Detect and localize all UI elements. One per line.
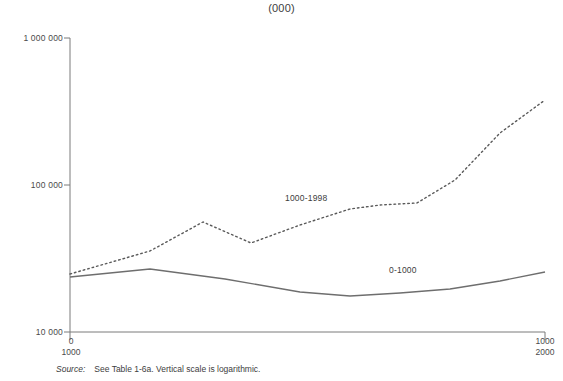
series-line-0-1000 — [70, 269, 545, 296]
source-note: Source:See Table 1-6a. Vertical scale is… — [56, 364, 260, 374]
chart-plot-area — [0, 0, 563, 381]
source-note-label: Source: — [56, 364, 85, 374]
series-label-0-1000: 0-1000 — [389, 265, 417, 275]
series-line-1000-1998 — [70, 100, 545, 274]
x-axis-tick-label-left: 0 1000 — [56, 336, 86, 358]
y-axis-tick-label-middle: 100 000 — [3, 180, 63, 190]
y-axis-tick-label-bottom: 10 000 — [3, 327, 63, 337]
x-axis-tick-label-right-line2: 2000 — [528, 347, 562, 358]
source-note-text: See Table 1-6a. Vertical scale is logari… — [94, 364, 260, 374]
series-label-1000-1998: 1000-1998 — [285, 193, 327, 203]
x-axis-tick-label-left-line2: 1000 — [56, 347, 86, 358]
chart-figure: (000) 1 000 000 100 000 10 000 0 1000 10… — [0, 0, 563, 381]
x-axis-tick-label-right-line1: 1000 — [528, 336, 562, 347]
x-axis-tick-label-left-line1: 0 — [56, 336, 86, 347]
x-axis-tick-label-right: 1000 2000 — [528, 336, 562, 358]
y-axis-tick-label-top: 1 000 000 — [3, 33, 63, 43]
